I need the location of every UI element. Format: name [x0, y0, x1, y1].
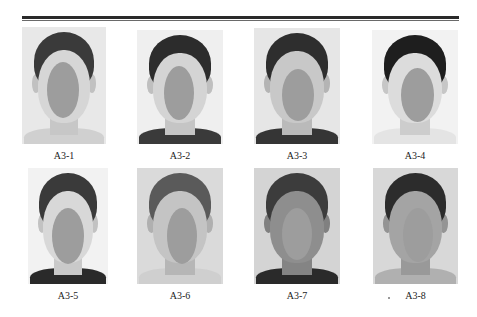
photo-label: A3-1 [24, 150, 104, 161]
face-redaction-oval [52, 208, 84, 264]
photo-label: A3-2 [140, 150, 220, 161]
top-rule-thin [22, 20, 459, 21]
face-redaction-oval [167, 208, 197, 264]
photo-label: A3-6 [140, 290, 220, 301]
face-photo [372, 30, 458, 144]
face-photo [373, 168, 458, 284]
face-redaction-oval [401, 68, 434, 122]
face-redaction-oval [47, 62, 79, 118]
face-photo [137, 168, 223, 284]
stray-dot [388, 297, 390, 299]
face-redaction-oval [403, 208, 433, 262]
face-photo [137, 30, 223, 144]
photo-label: A3-5 [28, 290, 108, 301]
face-redaction-oval [282, 208, 312, 260]
photo-label: A3-3 [257, 150, 337, 161]
face-redaction-oval [164, 66, 194, 120]
face-photo [254, 28, 340, 144]
face-photo [254, 168, 340, 284]
face-photo [28, 168, 108, 284]
photo-label: A3-7 [257, 290, 337, 301]
face-photo [22, 27, 106, 144]
face-redaction-oval [282, 69, 314, 121]
photo-label: A3-8 [376, 290, 456, 301]
photo-label: A3-4 [375, 150, 455, 161]
top-rule-thick [22, 16, 459, 19]
